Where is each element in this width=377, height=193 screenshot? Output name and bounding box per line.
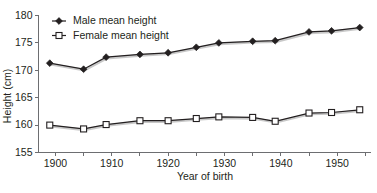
y-axis: 155160165170175180 <box>15 9 39 158</box>
x-tick-label: 1950 <box>326 157 350 169</box>
x-tick-label: 1940 <box>269 157 293 169</box>
data-point <box>357 107 363 113</box>
data-point <box>165 118 171 124</box>
x-axis: 190019101920193019401950 <box>39 153 372 169</box>
legend-item: Female mean height <box>52 29 169 41</box>
data-point <box>216 114 222 120</box>
data-point <box>329 109 335 115</box>
legend-label: Male mean height <box>73 14 157 26</box>
data-point <box>193 116 199 122</box>
y-tick-label: 160 <box>15 118 33 130</box>
x-tick-label: 1930 <box>213 157 237 169</box>
x-tick-label: 1900 <box>44 157 68 169</box>
data-point <box>47 122 53 128</box>
y-tick-label: 165 <box>15 91 33 103</box>
y-tick-label: 155 <box>15 146 33 158</box>
data-point <box>272 118 278 124</box>
y-tick-label: 180 <box>15 9 33 21</box>
series-line-shadow <box>51 111 361 130</box>
data-point <box>250 114 256 120</box>
x-tick-label: 1920 <box>156 157 180 169</box>
series-female <box>47 107 363 132</box>
data-point <box>81 126 87 132</box>
y-axis-title: Height (cm) <box>1 69 13 123</box>
chart-legend: Male mean heightFemale mean height <box>52 14 169 41</box>
data-point <box>103 122 109 128</box>
y-tick-label: 170 <box>15 64 33 76</box>
y-tick-label: 175 <box>15 36 33 48</box>
x-tick-label: 1910 <box>100 157 124 169</box>
legend-item: Male mean height <box>52 14 157 26</box>
data-point <box>306 110 312 116</box>
legend-label: Female mean height <box>73 29 169 41</box>
data-point <box>80 66 87 73</box>
chart-canvas: 155160165170175180 190019101920193019401… <box>0 0 377 193</box>
height-by-year-of-birth-chart: 155160165170175180 190019101920193019401… <box>0 0 377 193</box>
x-axis-title: Year of birth <box>177 170 233 182</box>
legend-marker <box>56 18 63 25</box>
data-point <box>137 118 143 124</box>
legend-marker <box>56 33 62 39</box>
